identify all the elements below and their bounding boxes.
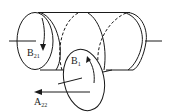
- label-b1-main: B: [71, 55, 78, 66]
- label-a22-sub: 22: [41, 102, 47, 108]
- label-b21: B21: [27, 48, 40, 59]
- a22-arrowhead-icon: [34, 89, 42, 95]
- cylinder-diagram: [0, 0, 170, 112]
- front-disk: [58, 46, 110, 112]
- b21-rotation-path: [42, 18, 44, 46]
- label-b21-sub: 21: [34, 53, 40, 59]
- label-a22: A22: [34, 97, 47, 108]
- label-b1-sub: 1: [78, 61, 81, 67]
- right-end-inner-arc: [124, 13, 142, 71]
- b21-arrowhead-icon: [40, 44, 46, 51]
- label-b21-main: B: [27, 47, 34, 58]
- label-b1: B1: [71, 56, 81, 67]
- hidden-arc-2: [98, 13, 126, 64]
